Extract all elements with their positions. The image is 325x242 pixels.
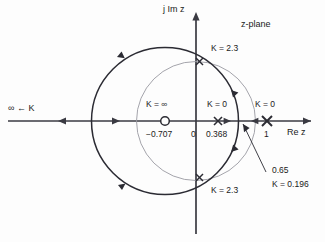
crossing-lower-gain-label: K = 2.3	[211, 186, 238, 195]
zero-marker	[161, 117, 170, 126]
root-locus-plot	[0, 0, 325, 242]
breakaway-value-label: 0.65	[272, 166, 289, 175]
pole1-gain-label: K = 0	[207, 100, 227, 109]
crossing-upper-gain-label: K = 2.3	[211, 44, 238, 53]
pole2-gain-label: K = 0	[255, 100, 275, 109]
zero-gain-label: K = ∞	[146, 100, 167, 109]
pole1-value-label: 0.368	[206, 130, 227, 139]
branch-arrowhead-from-pole2	[251, 118, 258, 124]
locus-arrowhead-upper-left	[117, 52, 125, 59]
real-axis-arrowhead-right	[303, 117, 311, 124]
infinity-branch-label: ∞ ← K	[8, 104, 34, 113]
branch-arrowhead-to-infinity	[58, 118, 66, 125]
pole2-value-label: 1	[264, 130, 269, 139]
breakaway-gain-label: K = 0.196	[272, 180, 309, 189]
origin-label: 0	[191, 130, 196, 139]
plane-label: z-plane	[241, 20, 271, 29]
real-axis-label: Re z	[287, 128, 306, 137]
zero-value-label: −0.707	[146, 130, 172, 139]
imaginary-axis-arrowhead-up	[192, 12, 199, 21]
branch-arrowhead-left-segment	[112, 118, 120, 125]
imaginary-axis-label: j Im z	[163, 5, 185, 14]
branch-arrowhead-from-pole1	[224, 118, 231, 124]
imaginary-axis	[192, 12, 199, 234]
root-locus-figure: z-plane j Im z Re z ∞ ← K K = ∞ −0.707 0…	[0, 0, 325, 242]
locus-arrowhead-lower-left	[118, 183, 126, 190]
